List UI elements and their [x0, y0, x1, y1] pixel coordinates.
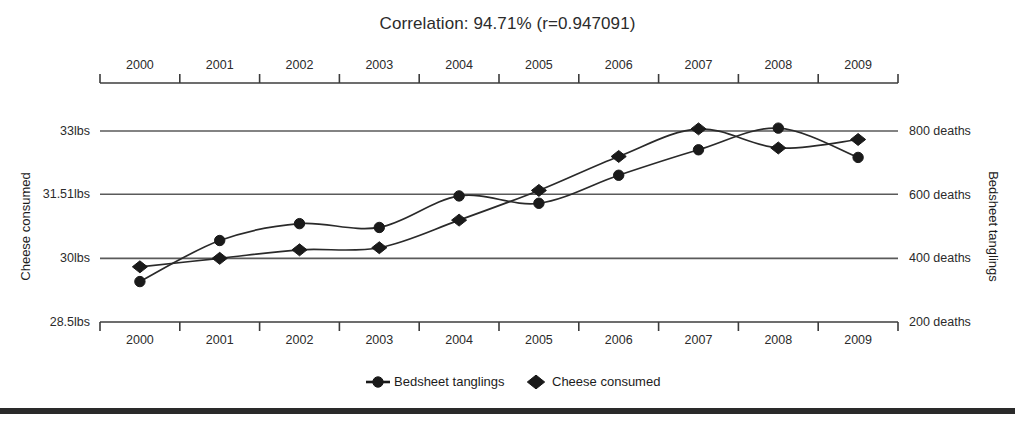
top-axis-year-label: 2005 [525, 58, 553, 72]
data-point-circle [693, 145, 703, 155]
top-axis-year-label: 2002 [286, 58, 314, 72]
legend-marker-diamond [527, 375, 544, 389]
left-axis-tick-label: 33lbs [60, 124, 90, 138]
data-point-diamond [611, 150, 626, 162]
series-layer [132, 123, 865, 287]
bottom-axis-year-label: 2002 [286, 333, 314, 347]
data-point-diamond [691, 123, 706, 135]
data-point-diamond [292, 244, 307, 256]
right-axis-tick-label: 600 deaths [909, 188, 971, 202]
legend-label: Cheese consumed [552, 374, 660, 389]
data-point-circle [294, 218, 304, 228]
legend-item[interactable]: Cheese consumed [527, 374, 660, 389]
left-axis: 33lbs31.51lbs30lbs28.5lbsCheese consumed [18, 124, 90, 329]
right-axis-tick-label: 400 deaths [909, 251, 971, 265]
legend-label: Bedsheet tanglings [394, 374, 505, 389]
bottom-axis-year-label: 2000 [126, 333, 154, 347]
top-axis-year-label: 2004 [445, 58, 473, 72]
chart-plot-area: 2000200120022003200420052006200720082009… [0, 0, 1015, 430]
right-axis-tick-label: 200 deaths [909, 315, 971, 329]
bottom-axis-year-label: 2007 [685, 333, 713, 347]
top-axis-year-label: 2008 [764, 58, 792, 72]
data-point-diamond [771, 142, 786, 154]
top-axis-year-label: 2007 [685, 58, 713, 72]
bottom-axis-year-label: 2006 [605, 333, 633, 347]
right-axis-title: Bedsheet tanglings [986, 171, 1001, 282]
chart-legend: Bedsheet tanglingsCheese consumed [366, 374, 660, 389]
right-axis: 800 deaths600 deaths400 deaths200 deaths… [909, 124, 1001, 329]
bottom-axis-year-label: 2001 [206, 333, 234, 347]
data-point-diamond [132, 261, 147, 273]
data-point-circle [773, 123, 783, 133]
right-axis-tick-label: 800 deaths [909, 124, 971, 138]
data-point-diamond [452, 214, 467, 226]
top-axis: 2000200120022003200420052006200720082009 [100, 58, 898, 83]
footer-divider [0, 408, 1015, 414]
legend-item[interactable]: Bedsheet tanglings [366, 374, 505, 389]
left-axis-title: Cheese consumed [18, 172, 33, 280]
data-point-diamond [212, 252, 227, 264]
bottom-axis-year-label: 2005 [525, 333, 553, 347]
top-axis-year-label: 2009 [844, 58, 872, 72]
data-point-circle [534, 198, 544, 208]
data-point-circle [454, 191, 464, 201]
data-point-circle [135, 276, 145, 286]
series-diamond [132, 123, 865, 273]
legend-marker-circle [373, 377, 383, 387]
top-axis-year-label: 2006 [605, 58, 633, 72]
spurious-correlation-chart: Correlation: 94.71% (r=0.947091) 2000200… [0, 0, 1015, 430]
bottom-axis: 2000200120022003200420052006200720082009 [100, 322, 898, 347]
left-axis-tick-label: 30lbs [60, 251, 90, 265]
top-axis-year-label: 2003 [365, 58, 393, 72]
bottom-axis-year-label: 2003 [365, 333, 393, 347]
bottom-axis-year-label: 2009 [844, 333, 872, 347]
series-line [140, 129, 858, 267]
data-point-diamond [851, 134, 866, 146]
data-point-circle [374, 222, 384, 232]
bottom-axis-year-label: 2004 [445, 333, 473, 347]
top-axis-year-label: 2001 [206, 58, 234, 72]
left-axis-tick-label: 28.5lbs [50, 315, 90, 329]
data-point-circle [853, 152, 863, 162]
data-point-circle [614, 170, 624, 180]
left-axis-tick-label: 31.51lbs [43, 187, 90, 201]
top-axis-year-label: 2000 [126, 58, 154, 72]
data-point-diamond [372, 242, 387, 254]
bottom-axis-year-label: 2008 [764, 333, 792, 347]
data-point-circle [215, 235, 225, 245]
